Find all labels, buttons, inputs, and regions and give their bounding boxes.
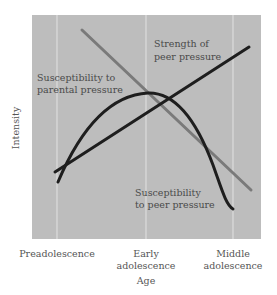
x-axis-label: Age bbox=[136, 275, 156, 286]
x-tick-middle-line2: adolescence bbox=[203, 260, 262, 271]
x-tick-preadolescence: Preadolescence bbox=[19, 248, 95, 259]
y-axis-label: Intensity bbox=[10, 106, 21, 149]
label-susceptibility-line2: to peer pressure bbox=[135, 199, 215, 210]
x-tick-early-line1: Early bbox=[133, 248, 159, 259]
chart: Strength of peer pressure Susceptibility… bbox=[0, 0, 277, 295]
x-tick-middle-line1: Middle bbox=[216, 248, 250, 259]
label-parental-line1: Susceptibility to bbox=[37, 72, 116, 83]
label-parental-line2: parental pressure bbox=[37, 84, 123, 95]
label-susceptibility-line1: Susceptibility bbox=[135, 187, 201, 198]
x-tick-early-line2: adolescence bbox=[116, 260, 175, 271]
label-strength-line1: Strength of bbox=[154, 38, 210, 49]
label-strength-line2: peer pressure bbox=[154, 51, 222, 62]
